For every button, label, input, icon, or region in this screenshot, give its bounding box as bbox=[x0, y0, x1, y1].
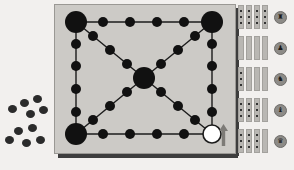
inventory-bar-pip bbox=[248, 115, 250, 117]
board-node[interactable] bbox=[179, 17, 189, 27]
board-node[interactable] bbox=[207, 61, 217, 71]
inventory-bar[interactable] bbox=[238, 36, 244, 60]
captured-piece[interactable] bbox=[33, 95, 42, 103]
board-node[interactable] bbox=[105, 45, 115, 55]
inventory-bar[interactable] bbox=[262, 98, 268, 122]
inventory-bar-pip bbox=[248, 10, 250, 12]
board-node[interactable] bbox=[152, 17, 162, 27]
board-node[interactable] bbox=[98, 17, 108, 27]
captured-piece[interactable] bbox=[5, 136, 14, 144]
board-node[interactable] bbox=[207, 107, 217, 117]
inventory-bar-pip bbox=[256, 22, 258, 24]
board-node[interactable] bbox=[190, 31, 200, 41]
board-node-large[interactable] bbox=[65, 123, 87, 145]
piece-icon-3[interactable]: ♞ bbox=[274, 73, 287, 86]
inventory-bar-pip bbox=[248, 146, 250, 148]
inventory-bar-group[interactable] bbox=[238, 129, 268, 153]
inventory-bar[interactable] bbox=[254, 98, 260, 122]
inventory-bar-pip bbox=[240, 140, 242, 142]
inventory-row[interactable]: ♟ bbox=[238, 35, 287, 61]
board-node[interactable] bbox=[152, 129, 162, 139]
board-node[interactable] bbox=[88, 31, 98, 41]
board-node[interactable] bbox=[105, 101, 115, 111]
inventory-bar-pip bbox=[240, 78, 242, 80]
inventory-bar-pip bbox=[240, 103, 242, 105]
board-node[interactable] bbox=[125, 17, 135, 27]
inventory-bar-pip bbox=[248, 16, 250, 18]
inventory-row[interactable]: ♜ bbox=[238, 4, 287, 30]
board-node[interactable] bbox=[71, 61, 81, 71]
board-node[interactable] bbox=[190, 115, 200, 125]
board-node[interactable] bbox=[125, 129, 135, 139]
inventory-bar-pip bbox=[256, 109, 258, 111]
inventory-bar[interactable] bbox=[246, 5, 252, 29]
board-node-large[interactable] bbox=[133, 67, 155, 89]
inventory-bar[interactable] bbox=[254, 5, 260, 29]
captured-piece[interactable] bbox=[8, 105, 17, 113]
captured-piece[interactable] bbox=[22, 139, 31, 147]
inventory-bar[interactable] bbox=[262, 67, 268, 91]
inventory-bar-pip bbox=[264, 16, 266, 18]
inventory-bar-group[interactable] bbox=[238, 98, 268, 122]
inventory-bar-pip bbox=[240, 109, 242, 111]
inventory-bar-pip bbox=[240, 72, 242, 74]
board-node[interactable] bbox=[156, 59, 166, 69]
board-node[interactable] bbox=[71, 107, 81, 117]
captured-piece[interactable] bbox=[26, 110, 35, 118]
inventory-bar-pip bbox=[240, 115, 242, 117]
inventory-bar[interactable] bbox=[246, 67, 252, 91]
inventory-row[interactable]: ♝ bbox=[238, 97, 287, 123]
inventory-bar-pip bbox=[256, 10, 258, 12]
inventory-bar[interactable] bbox=[254, 36, 260, 60]
inventory-row[interactable]: ♞ bbox=[238, 66, 287, 92]
inventory-bar-pip bbox=[256, 103, 258, 105]
inventory-bar-group[interactable] bbox=[238, 5, 268, 29]
inventory-bar-pip bbox=[248, 140, 250, 142]
board-graph[interactable] bbox=[54, 4, 234, 152]
board-node[interactable] bbox=[122, 87, 132, 97]
inventory-bar[interactable] bbox=[246, 98, 252, 122]
board-node[interactable] bbox=[207, 39, 217, 49]
captured-piece[interactable] bbox=[20, 99, 29, 107]
piece-icon-1[interactable]: ♜ bbox=[274, 11, 287, 24]
inventory-bar-group[interactable] bbox=[238, 67, 268, 91]
inventory-bar[interactable] bbox=[246, 129, 252, 153]
board-node[interactable] bbox=[179, 129, 189, 139]
inventory-bar[interactable] bbox=[246, 36, 252, 60]
inventory-bar[interactable] bbox=[238, 129, 244, 153]
inventory-row[interactable]: ♛ bbox=[238, 128, 287, 154]
inventory-bar[interactable] bbox=[262, 36, 268, 60]
inventory-bar-pip bbox=[240, 84, 242, 86]
board-node[interactable] bbox=[207, 84, 217, 94]
inventory-bar[interactable] bbox=[262, 129, 268, 153]
piece-icon-4[interactable]: ♝ bbox=[274, 104, 287, 117]
board-node[interactable] bbox=[173, 101, 183, 111]
board-node[interactable] bbox=[173, 45, 183, 55]
inventory-bar-pip bbox=[248, 134, 250, 136]
piece-icon-2[interactable]: ♟ bbox=[274, 42, 287, 55]
captured-piece[interactable] bbox=[14, 127, 23, 135]
board-node[interactable] bbox=[88, 115, 98, 125]
board-node-large[interactable] bbox=[65, 11, 87, 33]
inventory-bar-pip bbox=[248, 22, 250, 24]
inventory-bar[interactable] bbox=[262, 5, 268, 29]
inventory-bar[interactable] bbox=[238, 98, 244, 122]
board-node-layer bbox=[65, 11, 223, 145]
captured-piece[interactable] bbox=[39, 106, 48, 114]
board-node[interactable] bbox=[156, 87, 166, 97]
inventory-bar[interactable] bbox=[254, 67, 260, 91]
inventory-bar[interactable] bbox=[238, 67, 244, 91]
board-node-large[interactable] bbox=[201, 11, 223, 33]
board-node[interactable] bbox=[122, 59, 132, 69]
board-node[interactable] bbox=[98, 129, 108, 139]
board-node[interactable] bbox=[71, 39, 81, 49]
inventory-bar-pip bbox=[248, 103, 250, 105]
inventory-bar-group[interactable] bbox=[238, 36, 268, 60]
piece-icon-5[interactable]: ♛ bbox=[274, 135, 287, 148]
inventory-panel[interactable]: ♜♟♞♝♛ bbox=[238, 4, 294, 168]
inventory-bar[interactable] bbox=[238, 5, 244, 29]
captured-piece[interactable] bbox=[28, 124, 37, 132]
inventory-bar[interactable] bbox=[254, 129, 260, 153]
board-node[interactable] bbox=[71, 84, 81, 94]
captured-piece[interactable] bbox=[36, 136, 45, 144]
